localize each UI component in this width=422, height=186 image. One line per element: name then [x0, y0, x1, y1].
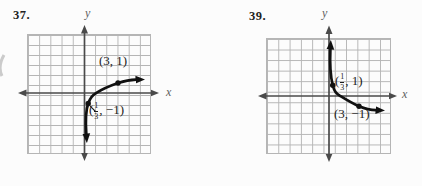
- graph-39-y-axis-label: y: [322, 6, 327, 21]
- scan-artifact: [0, 55, 4, 76]
- point-label-three-neg-one: (3, −1): [334, 107, 370, 121]
- graphs-overlay: [0, 0, 422, 186]
- point-label-text: (3, 1): [99, 54, 127, 68]
- fraction-denominator: 3: [94, 113, 98, 121]
- point-three-one: [115, 80, 120, 85]
- fraction-denominator: 3: [340, 84, 344, 92]
- graph-39-x-axis-label: x: [402, 87, 407, 102]
- one-third-fraction: 13: [340, 73, 344, 92]
- open-paren: (: [89, 103, 93, 117]
- textbook-figure: 37. 39.: [0, 0, 422, 186]
- label-tail: , −1): [99, 103, 124, 117]
- fraction-numerator: 1: [94, 102, 98, 110]
- graph-37-y-axis-label: y: [85, 6, 90, 21]
- graph-39-axes: [266, 34, 389, 155]
- graph-37-x-axis-label: x: [166, 85, 171, 100]
- graph-37-axes: [26, 33, 151, 153]
- one-third-fraction: 13: [94, 102, 98, 121]
- point-label-text: (3, −1): [334, 107, 370, 121]
- point-label-one-third-one: (13, 1): [335, 72, 363, 91]
- fraction-numerator: 1: [340, 73, 344, 81]
- point-label-three-one: (3, 1): [99, 54, 127, 68]
- point-label-one-third-neg-one: (13, −1): [89, 101, 124, 120]
- open-paren: (: [335, 74, 339, 88]
- label-tail: , 1): [345, 74, 362, 88]
